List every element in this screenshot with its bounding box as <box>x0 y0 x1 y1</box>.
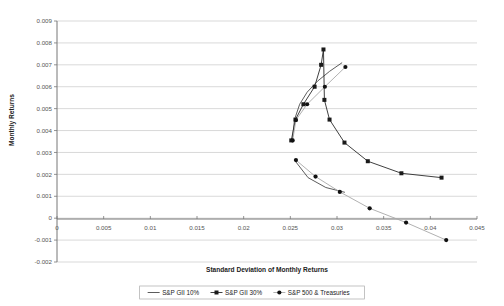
data-point-square <box>399 171 403 175</box>
data-point-circle <box>305 102 309 106</box>
legend-circle-marker <box>277 290 281 294</box>
data-point-circle <box>368 206 372 210</box>
data-point-square <box>319 63 323 67</box>
y-tick-label: -0.002 <box>34 258 52 265</box>
y-tick-label: 0.004 <box>37 127 53 134</box>
y-tick-label: 0.005 <box>37 105 53 112</box>
y-tick-label: 0.007 <box>37 61 53 68</box>
legend-square-marker <box>215 291 219 295</box>
x-tick-label: 0.045 <box>469 224 485 231</box>
data-point-square <box>440 176 444 180</box>
data-point-circle <box>343 65 347 69</box>
legend-label: S&P GII 30% <box>225 289 262 296</box>
x-tick-label: 0.035 <box>376 224 392 231</box>
y-tick-label: 0.001 <box>37 192 53 199</box>
chart-legend: S&P GII 10%S&P GII 30%S&P 500 & Treasuri… <box>140 286 365 299</box>
data-point-square <box>313 85 317 89</box>
data-point-circle <box>294 118 298 122</box>
y-axis-title: Monthly Returns <box>8 94 16 146</box>
data-point-circle <box>404 220 408 224</box>
data-point-square <box>366 159 370 163</box>
chart-container: 00.0050.010.0150.020.0250.030.0350.040.0… <box>0 0 504 306</box>
x-axis-title: Standard Deviation of Monthly Returns <box>206 266 328 274</box>
y-tick-label: -0.001 <box>34 236 52 243</box>
data-point-square <box>301 102 305 106</box>
data-point-circle <box>313 174 317 178</box>
data-point-square <box>342 141 346 145</box>
data-point-circle <box>323 85 327 89</box>
y-tick-label: 0.009 <box>37 17 53 24</box>
data-point-square <box>322 98 326 102</box>
x-tick-label: 0.005 <box>96 224 112 231</box>
y-tick-label: 0.002 <box>37 171 53 178</box>
x-tick-label: 0.02 <box>238 224 251 231</box>
legend-label: S&P GII 10% <box>162 289 199 296</box>
data-point-square <box>328 118 332 122</box>
x-tick-label: 0.025 <box>283 224 299 231</box>
x-tick-label: 0.03 <box>331 224 344 231</box>
chart-background <box>0 0 504 306</box>
data-point-circle <box>338 190 342 194</box>
scatter-chart: 00.0050.010.0150.020.0250.030.0350.040.0… <box>0 0 504 306</box>
x-tick-label: 0.01 <box>144 224 157 231</box>
y-tick-label: 0 <box>49 214 53 221</box>
data-point-circle <box>291 138 295 142</box>
y-tick-label: 0.003 <box>37 149 53 156</box>
data-point-circle <box>444 238 448 242</box>
data-point-circle <box>294 158 298 162</box>
data-point-square <box>321 47 325 51</box>
x-tick-label: 0.04 <box>424 224 437 231</box>
x-tick-label: 0.015 <box>189 224 205 231</box>
y-tick-label: 0.006 <box>37 83 53 90</box>
y-tick-label: 0.008 <box>37 39 53 46</box>
legend-label: S&P 500 & Treasuries <box>288 289 350 296</box>
